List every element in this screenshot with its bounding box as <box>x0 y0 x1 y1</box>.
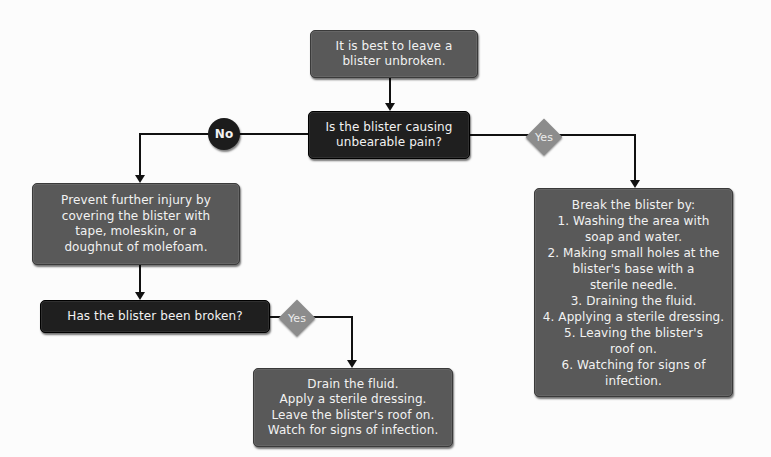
node-text-line: blister's base with a <box>572 261 694 277</box>
node-break-blister: Break the blister by: 1. Washing the are… <box>534 188 733 397</box>
node-text-line: covering the blister with <box>62 209 211 225</box>
node-text-line: roof on. <box>610 341 657 357</box>
node-text-line: Apply a sterile dressing. <box>279 392 426 408</box>
node-text-line: 1. Washing the area with <box>558 213 710 229</box>
yes-diamond-badge-broken: Yes <box>279 300 315 336</box>
node-start: It is best to leave a blister unbroken. <box>310 30 478 78</box>
node-text-line: unbearable pain? <box>336 135 442 151</box>
node-text-line: sterile needle. <box>590 277 677 293</box>
yes-diamond-badge-pain: Yes <box>526 119 562 155</box>
node-question-pain: Is the blister causing unbearable pain? <box>308 111 470 159</box>
node-text-line: blister unbroken. <box>342 54 445 70</box>
node-text-line: tape, moleskin, or a <box>75 224 197 240</box>
node-text-line: It is best to leave a <box>336 39 453 55</box>
no-circle-badge: No <box>208 118 240 150</box>
node-text-line: soap and water. <box>585 229 682 245</box>
node-text-line: 5. Leaving the blister's <box>564 325 703 341</box>
node-text-line: 3. Draining the fluid. <box>571 293 697 309</box>
node-question-broken: Has the blister been broken? <box>40 300 270 333</box>
node-text-line: Leave the blister's roof on. <box>272 408 435 424</box>
node-text-line: 6. Watching for signs of <box>561 357 705 373</box>
node-text-line: Is the blister causing <box>325 120 452 136</box>
node-text-line: Prevent further injury by <box>61 193 211 209</box>
node-text-line: 2. Making small holes at the <box>547 245 719 261</box>
no-label: No <box>215 127 233 141</box>
node-text-line: Has the blister been broken? <box>67 309 242 325</box>
node-text-line: Watch for signs of infection. <box>268 423 439 439</box>
node-text-line: doughnut of molefoam. <box>64 240 207 256</box>
node-prevent-injury: Prevent further injury by covering the b… <box>32 183 240 265</box>
blister-flowchart: It is best to leave a blister unbroken. … <box>0 0 771 457</box>
yes-label: Yes <box>288 312 306 325</box>
node-drain-fluid: Drain the fluid. Apply a sterile dressin… <box>253 368 453 447</box>
node-text-line: infection. <box>605 373 662 389</box>
node-text-line: 4. Applying a sterile dressing. <box>543 309 724 325</box>
node-text-line: Drain the fluid. <box>307 377 398 393</box>
node-text-line: Break the blister by: <box>572 197 695 213</box>
yes-label: Yes <box>535 131 553 144</box>
